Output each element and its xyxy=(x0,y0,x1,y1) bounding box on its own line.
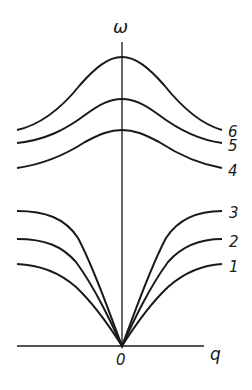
curve-6 xyxy=(17,57,222,130)
omega-label: ω xyxy=(113,16,128,37)
curve-label-1: 1 xyxy=(229,258,239,276)
curve-label-3: 3 xyxy=(229,204,239,222)
curve-3 xyxy=(17,211,222,346)
curve-1 xyxy=(17,264,222,346)
curve-label-2: 2 xyxy=(229,233,239,251)
curve-2 xyxy=(17,239,222,346)
curve-5 xyxy=(17,99,222,143)
dispersion-diagram: ω q 0 6 5 4 3 2 1 xyxy=(0,0,252,390)
q-label: q xyxy=(210,344,221,364)
curve-label-4: 4 xyxy=(228,162,238,180)
origin-label: 0 xyxy=(116,351,126,369)
curve-label-5: 5 xyxy=(228,137,238,155)
